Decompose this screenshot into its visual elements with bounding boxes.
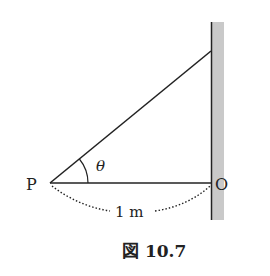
distance-arc-left	[52, 186, 110, 211]
incline-line	[50, 51, 211, 183]
distance-arc-right	[155, 186, 210, 211]
figure-caption: 図 10.7	[122, 241, 186, 261]
label-theta: θ	[96, 157, 105, 175]
label-distance: 1 m	[115, 203, 144, 221]
angle-arc	[79, 159, 88, 183]
label-o: O	[215, 175, 228, 194]
label-p: P	[26, 175, 37, 194]
diagram: P O θ 1 m 図 10.7	[0, 0, 270, 276]
